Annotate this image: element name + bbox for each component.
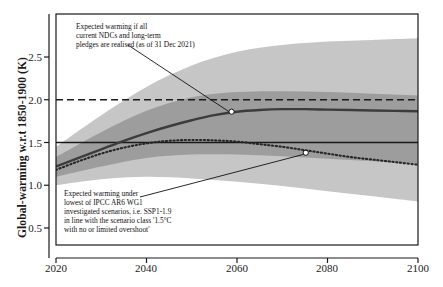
y-tick-label-2.5: 2.5: [14, 51, 42, 63]
climate-projection-chart: [0, 0, 443, 287]
y-tick-label-2.0: 2.0: [14, 94, 42, 106]
x-tick-label-2080: 2080: [304, 262, 350, 274]
ndc-marker: [229, 109, 234, 114]
ssp119-marker: [303, 150, 308, 155]
y-tick-label-1.5: 1.5: [14, 137, 42, 149]
y-tick-label-0.5: 0.5: [14, 222, 42, 234]
ndc-annotation-line-1: Expected warming if all: [76, 22, 195, 31]
ssp119-annotation-line-5: with no or limited overshoot': [64, 225, 172, 234]
ndc-annotation-line-3: pledges are realised (as of 31 Dec 2021): [76, 40, 195, 49]
ndc-annotation-line-2: current NDCs and long-term: [76, 31, 195, 40]
ssp119-annotation-line-3: investigated scenarios, i.e. SSP1-1.9: [64, 207, 172, 216]
x-tick-label-2060: 2060: [214, 262, 260, 274]
ssp119-annotation-line-2: lowest of IPCC AR6 WG1: [64, 198, 172, 207]
ssp119-annotation-line-4: in line with the scenario class '1.5°C: [64, 216, 172, 225]
y-tick-label-1.0: 1.0: [14, 179, 42, 191]
y-tick-marks: [44, 57, 49, 228]
ndc-annotation: Expected warming if all current NDCs and…: [76, 22, 195, 49]
ssp119-annotation-line-1: Expected warming under: [64, 189, 172, 198]
x-tick-label-2020: 2020: [33, 262, 79, 274]
x-tick-label-2040: 2040: [123, 262, 169, 274]
ssp119-annotation: Expected warming under lowest of IPCC AR…: [64, 189, 172, 234]
x-tick-label-2100: 2100: [395, 262, 441, 274]
